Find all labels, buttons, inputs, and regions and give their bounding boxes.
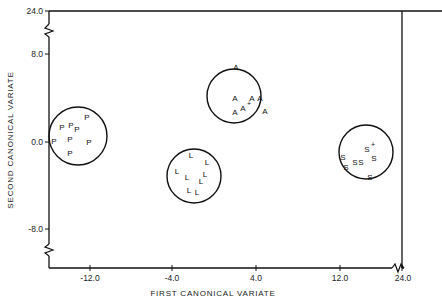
data-point: P bbox=[51, 137, 56, 146]
y-tick-label: 8.0 bbox=[31, 49, 43, 59]
y-tick-label: 24.0 bbox=[26, 6, 43, 16]
group-p-points: P P P P P P P P bbox=[51, 113, 91, 158]
data-point: P bbox=[67, 135, 72, 144]
x-tick-label: 24.0 bbox=[395, 273, 412, 283]
data-point: L bbox=[187, 186, 192, 195]
group-a-points: A A A A A A A + bbox=[232, 63, 268, 117]
data-point: L bbox=[189, 151, 194, 160]
data-point: P bbox=[84, 113, 89, 122]
data-point: S bbox=[364, 145, 369, 154]
data-point: L bbox=[195, 188, 200, 197]
centroid-marker-icon: + bbox=[371, 141, 375, 148]
data-point: A bbox=[240, 104, 246, 113]
data-point: P bbox=[67, 149, 72, 158]
data-point: S bbox=[340, 153, 345, 162]
data-point: S bbox=[358, 158, 363, 167]
data-point: P bbox=[68, 121, 73, 130]
x-tick-labels: -12.0 -4.0 4.0 12.0 24.0 bbox=[80, 273, 411, 283]
data-point: L bbox=[199, 177, 204, 186]
x-tick-label: -4.0 bbox=[165, 273, 180, 283]
y-tick-label: 0.0 bbox=[31, 137, 43, 147]
x-tick-label: 4.0 bbox=[250, 273, 262, 283]
y-axis-title: SECOND CANONICAL VARIATE bbox=[6, 71, 15, 208]
group-s-points: S S S S S S S + bbox=[340, 141, 376, 182]
y-axis-break-top-icon bbox=[45, 24, 53, 37]
data-point: S bbox=[367, 173, 372, 182]
axes bbox=[45, 11, 442, 272]
data-point: S bbox=[352, 158, 357, 167]
x-tick-label: 12.0 bbox=[332, 273, 349, 283]
group-p-circle bbox=[49, 107, 107, 165]
data-point: S bbox=[343, 163, 348, 172]
data-point: L bbox=[205, 158, 210, 167]
data-point: P bbox=[59, 123, 64, 132]
y-tick-label: -8.0 bbox=[28, 224, 43, 234]
group-l-points: L L L L L L L L bbox=[175, 151, 210, 197]
centroid-marker-icon: + bbox=[247, 100, 251, 107]
data-point: S bbox=[371, 154, 376, 163]
y-axis-break-bottom-icon bbox=[45, 244, 53, 256]
x-axis-title: FIRST CANONICAL VARIATE bbox=[150, 289, 275, 298]
y-tick-labels: 24.0 8.0 0.0 -8.0 bbox=[26, 6, 43, 234]
data-point: P bbox=[86, 138, 91, 147]
canonical-variate-plot: 24.0 8.0 0.0 -8.0 -12.0 -4.0 4.0 12.0 24… bbox=[0, 0, 442, 303]
data-point: L bbox=[203, 170, 208, 179]
data-point: L bbox=[185, 173, 190, 182]
data-point: P bbox=[74, 125, 79, 134]
data-point: A bbox=[232, 108, 238, 117]
group-circles bbox=[49, 69, 393, 203]
x-tick-label: -12.0 bbox=[80, 273, 100, 283]
data-point: A bbox=[257, 94, 263, 103]
data-point: L bbox=[175, 167, 180, 176]
data-point: A bbox=[232, 94, 238, 103]
data-point: A bbox=[233, 63, 239, 72]
data-point: A bbox=[262, 107, 268, 116]
